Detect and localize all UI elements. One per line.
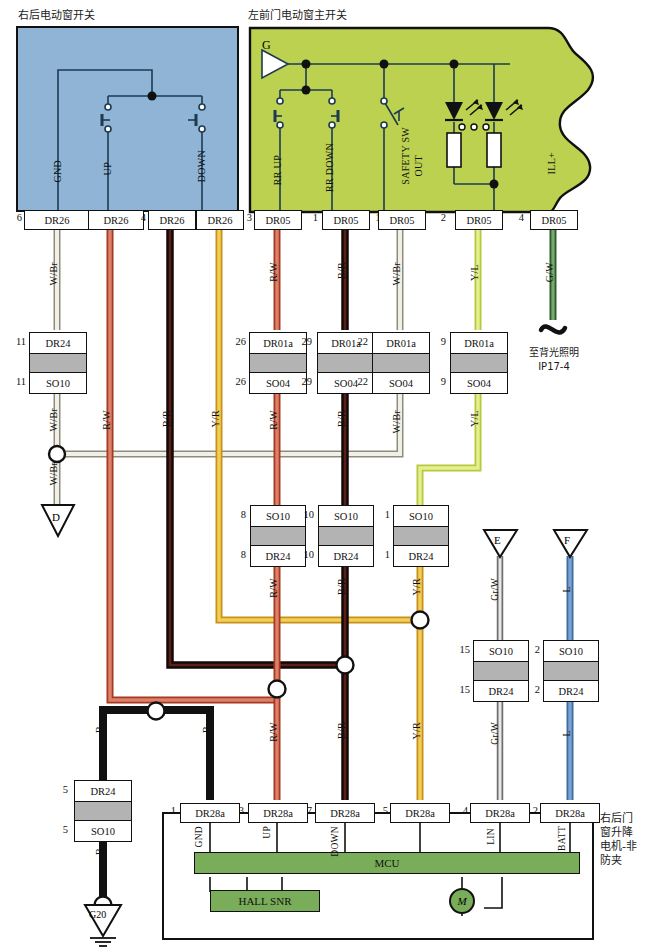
ground-pin-top-dr24-5: 5 — [56, 784, 68, 795]
connector-dr05-3[interactable]: DR05 — [254, 210, 302, 230]
wire-label-w-br-3: W/Br — [48, 462, 59, 485]
wire-label-b-2: B — [201, 726, 212, 733]
connector-dr05-1[interactable]: DR05 — [322, 210, 370, 230]
inline-pin-bottom-so04-9: 9 — [432, 376, 446, 387]
bottom-signal-down: DOWN — [330, 826, 340, 857]
wire-label-r-w-left: R/W — [101, 410, 112, 430]
ground-tag-g20: G20 — [89, 909, 106, 920]
bottom-connector-dr28a-5[interactable]: DR28a — [390, 803, 450, 823]
wire-label-b-1: B — [94, 726, 105, 733]
hall-sensor-bar: HALL SNR — [210, 890, 320, 912]
inline3-connector-dr24-15[interactable]: DR24 — [473, 680, 529, 702]
wire-label-w-br-1: W/Br — [48, 262, 59, 285]
inline-pin-bottom-so04-26: 26 — [230, 376, 246, 387]
inline-pin-bottom-so04-22: 22 — [352, 376, 368, 387]
inline-connector-so04-9[interactable]: SO04 — [450, 372, 508, 394]
ground-tag-d: D — [52, 511, 60, 523]
inline-connector-so04-22[interactable]: SO04 — [372, 372, 430, 394]
wire-label-l-2: L — [561, 730, 572, 736]
ground-pin-bottom-so10-5: 5 — [56, 824, 68, 835]
inline-connector-dr01a-22[interactable]: DR01a — [372, 332, 430, 354]
inline2-connector-dr24-1[interactable]: DR24 — [393, 545, 449, 567]
inline-connector-band-5 — [450, 354, 508, 372]
backlight-note-line2: IP17-4 — [506, 360, 602, 373]
connector-dr05-4[interactable]: DR05 — [530, 210, 578, 230]
inline-connector-dr01a-9[interactable]: DR01a — [450, 332, 508, 354]
inline-connector-band-1 — [29, 354, 87, 372]
wire-label-b-r-2: B/R — [336, 410, 347, 427]
inline-connector-band-4 — [372, 354, 430, 372]
inline-pin-top-dr01a-22: 22 — [352, 336, 368, 347]
wire-label-y-r-2: Y/R — [411, 722, 422, 740]
inline-connector-so10-11[interactable]: SO10 — [29, 372, 87, 394]
wiring-diagram-canvas: 右后电动窗开关 左前门电动窗主开关 — [0, 0, 656, 949]
connector-dr05-2[interactable]: DR05 — [455, 210, 503, 230]
inline2-pin-top-so10-8: 8 — [232, 509, 246, 520]
connector-pin-dr05-4: 4 — [512, 212, 524, 223]
connector-dr26-3[interactable]: DR26 — [196, 210, 244, 230]
connector-pin-dr26-4: 4 — [134, 212, 146, 223]
inline3-connector-so10-15[interactable]: SO10 — [473, 640, 529, 662]
wire-label-r-w-1: R/W — [268, 262, 279, 282]
inline3-pin-bottom-dr24-2: 2 — [528, 684, 540, 695]
wire-label-r-w-2: R/W — [268, 410, 279, 430]
connector-pin-dr05-1: 1 — [306, 212, 318, 223]
connector-pin-dr05-2: 2 — [434, 212, 446, 223]
inline2-connector-band-3 — [393, 527, 449, 545]
bottom-connector-dr28a-2[interactable]: DR28a — [540, 803, 600, 823]
bottom-pin-dr28a-1: 1 — [164, 805, 176, 816]
wire-label-r-w-3: R/W — [268, 578, 279, 598]
wire-label-y-r-1: Y/R — [411, 578, 422, 596]
bottom-pin-dr28a-4: 4 — [456, 805, 468, 816]
connector-dr05-15[interactable]: DR05 — [378, 210, 426, 230]
motor-module-internal-wires — [162, 812, 594, 940]
wire-label-l-1: L — [561, 586, 572, 592]
wire-label-b-r-left: B/R — [161, 410, 172, 427]
ground-tag-f: F — [564, 534, 570, 546]
inline-connector-band-2 — [249, 354, 307, 372]
wire-label-w-br-2: W/Br — [48, 408, 59, 431]
ground-connector-dr24-5[interactable]: DR24 — [74, 780, 132, 802]
inline2-connector-so10-1[interactable]: SO10 — [393, 505, 449, 527]
inline3-connector-band-2 — [543, 662, 599, 680]
bottom-pin-dr28a-7: 7 — [300, 805, 312, 816]
inline-connector-dr24-11[interactable]: DR24 — [29, 332, 87, 354]
motor-module-label: 右后门 窗升降 电机-非 防夹 — [600, 812, 654, 868]
inline3-pin-bottom-dr24-15: 15 — [454, 684, 470, 695]
wire-label-w-br-5: W/Br — [391, 410, 402, 433]
inline3-pin-top-so10-15: 15 — [454, 644, 470, 655]
inline-pin-bottom-so04-29: 29 — [296, 376, 312, 387]
inline-pin-top-dr24-11: 11 — [10, 336, 26, 347]
inline-pin-bottom-so10-11: 11 — [10, 376, 26, 387]
inline3-connector-so10-2[interactable]: SO10 — [543, 640, 599, 662]
inline-pin-top-dr01a-9: 9 — [432, 336, 446, 347]
wire-label-gr-w-1: Gr/W — [490, 578, 500, 601]
inline2-connector-dr24-10[interactable]: DR24 — [318, 545, 374, 567]
inline-pin-top-dr01a-29: 29 — [296, 336, 312, 347]
wire-label-y-r-left: Y/R — [210, 410, 221, 428]
inline3-pin-top-so10-2: 2 — [528, 644, 540, 655]
bottom-signal-gnd: GND — [194, 826, 204, 847]
bottom-connector-dr28a-7[interactable]: DR28a — [315, 803, 375, 823]
inline2-connector-so10-10[interactable]: SO10 — [318, 505, 374, 527]
connector-pin-dr05-3: 3 — [240, 212, 252, 223]
inline3-connector-dr24-2[interactable]: DR24 — [543, 680, 599, 702]
inline2-pin-bottom-dr24-10: 10 — [298, 549, 314, 560]
bottom-signal-lin: LIN — [486, 828, 496, 845]
wire-label-gr-w-2: Gr/W — [490, 722, 500, 745]
inline2-pin-bottom-dr24-8: 8 — [232, 549, 246, 560]
motor-symbol: M — [449, 888, 475, 914]
bottom-pin-dr28a-2: 2 — [526, 805, 538, 816]
bottom-connector-dr28a-1[interactable]: DR28a — [180, 803, 240, 823]
backlight-note-line1: 至背光照明 — [506, 346, 602, 359]
bottom-connector-dr28a-3[interactable]: DR28a — [248, 803, 308, 823]
wire-label-w-br-4: W/Br — [391, 262, 402, 285]
wire-label-b-3: B — [94, 848, 105, 855]
ground-connector-so10-5[interactable]: SO10 — [74, 820, 132, 842]
connector-dr26-6[interactable]: DR26 — [24, 210, 90, 230]
inline2-pin-bottom-dr24-1: 1 — [376, 549, 390, 560]
bottom-pin-dr28a-5: 5 — [376, 805, 388, 816]
bottom-signal-up: UP — [262, 826, 272, 839]
bottom-connector-dr28a-4[interactable]: DR28a — [470, 803, 530, 823]
wire-label-g-w: G/W — [544, 262, 555, 282]
